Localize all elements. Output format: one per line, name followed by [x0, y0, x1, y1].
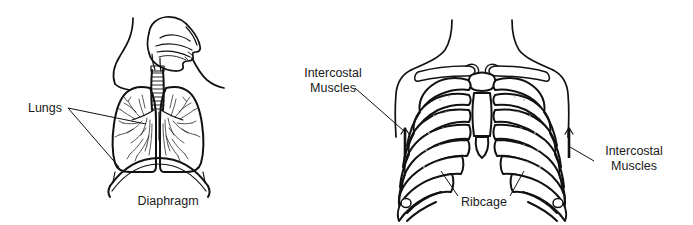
- label-intercostal-right-group: Intercostal Muscles: [570, 144, 663, 173]
- ribcage-diagram: Intercostal Muscles Intercostal Muscles …: [0, 0, 693, 225]
- label-intercostal-right-line2: Muscles: [611, 159, 657, 173]
- label-intercostal-right-line1: Intercostal: [605, 144, 663, 158]
- anatomy-figure: Lungs Diaphragm: [0, 0, 693, 225]
- leader-intercostal-right: [570, 147, 594, 161]
- label-intercostal-left-line2: Muscles: [310, 81, 356, 95]
- intercostal-marker-right: [565, 128, 573, 158]
- label-ribcage: Ribcage: [461, 195, 507, 209]
- label-intercostal-left-group: Intercostal Muscles: [304, 66, 404, 131]
- sternum: [469, 73, 496, 159]
- label-intercostal-left-line1: Intercostal: [304, 66, 362, 80]
